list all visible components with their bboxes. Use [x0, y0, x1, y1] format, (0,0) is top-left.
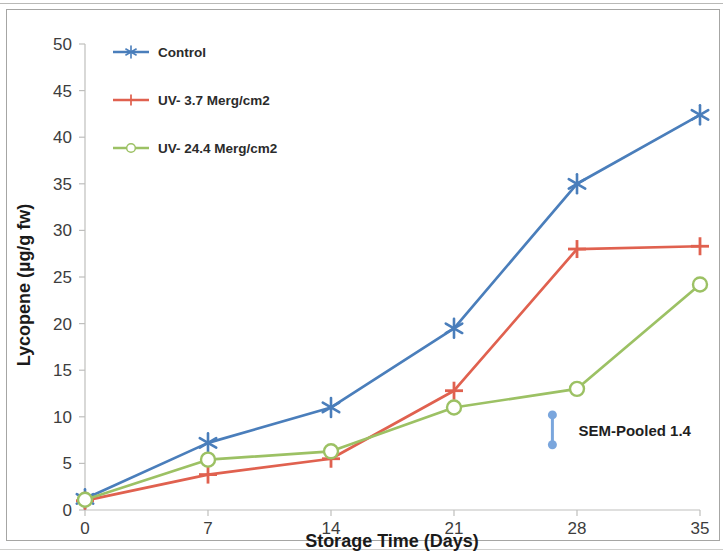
data-point-marker [201, 453, 215, 467]
series-2 [76, 237, 709, 509]
y-tick-label: 5 [63, 454, 72, 473]
y-tick-label: 20 [53, 315, 72, 334]
data-point-marker [570, 382, 584, 396]
data-series-layer [76, 105, 709, 509]
y-axis-tick-labels: 05101520253035404550 [53, 35, 72, 520]
series-3 [78, 277, 707, 506]
sem-bar-cap-top [548, 410, 557, 419]
series-line [85, 284, 700, 499]
series-line [85, 115, 700, 499]
y-tick-label: 40 [53, 128, 72, 147]
y-tick-label: 0 [63, 501, 72, 520]
y-tick-label: 35 [53, 175, 72, 194]
legend-item-2[interactable]: UV- 3.7 Merg/cm2 [113, 93, 270, 108]
data-point-marker [324, 444, 338, 458]
data-point-marker [692, 105, 708, 124]
chart-legend: ControlUV- 3.7 Merg/cm2UV- 24.4 Merg/cm2 [113, 45, 277, 156]
x-tick-label: 7 [203, 519, 212, 538]
y-tick-label: 25 [53, 268, 72, 287]
data-point-marker [323, 398, 339, 417]
y-tick-label: 50 [53, 35, 72, 54]
data-point-marker [447, 400, 461, 414]
sem-pooled-error-bar: SEM-Pooled 1.4 [548, 410, 692, 449]
legend-item-3[interactable]: UV- 24.4 Merg/cm2 [113, 141, 277, 156]
x-axis-title: Storage Time (Days) [305, 531, 479, 551]
x-tick-label: 35 [691, 519, 710, 538]
data-point-marker [127, 144, 136, 153]
x-tick-label: 0 [80, 519, 89, 538]
line-chart: 05101520253035404550 0714212835 SEM-Pool… [0, 0, 723, 555]
sem-pooled-label: SEM-Pooled 1.4 [578, 422, 691, 439]
legend-item-1[interactable]: Control [113, 45, 206, 60]
series-1 [77, 105, 708, 508]
y-tick-label: 10 [53, 408, 72, 427]
data-point-marker [199, 466, 217, 484]
legend-label: Control [158, 45, 206, 60]
x-tick-label: 28 [568, 519, 587, 538]
data-point-marker [691, 237, 709, 255]
sem-bar-cap-bottom [548, 440, 557, 449]
data-point-marker [200, 433, 216, 452]
axis-lines [85, 44, 700, 510]
legend-label: UV- 3.7 Merg/cm2 [158, 93, 270, 108]
annotation-layer: SEM-Pooled 1.4 [548, 410, 692, 449]
y-tick-label: 15 [53, 361, 72, 380]
y-tick-label: 30 [53, 221, 72, 240]
y-axis-title: Lycopene (µg/g fw) [14, 204, 34, 367]
data-point-marker [693, 277, 707, 291]
figure-container: 05101520253035404550 0714212835 SEM-Pool… [0, 0, 723, 555]
series-line [85, 246, 700, 500]
y-axis-ticks [79, 44, 85, 510]
data-point-marker [78, 493, 92, 507]
legend-label: UV- 24.4 Merg/cm2 [158, 141, 277, 156]
data-point-marker [125, 94, 136, 105]
x-axis-ticks [85, 510, 700, 516]
y-tick-label: 45 [53, 82, 72, 101]
